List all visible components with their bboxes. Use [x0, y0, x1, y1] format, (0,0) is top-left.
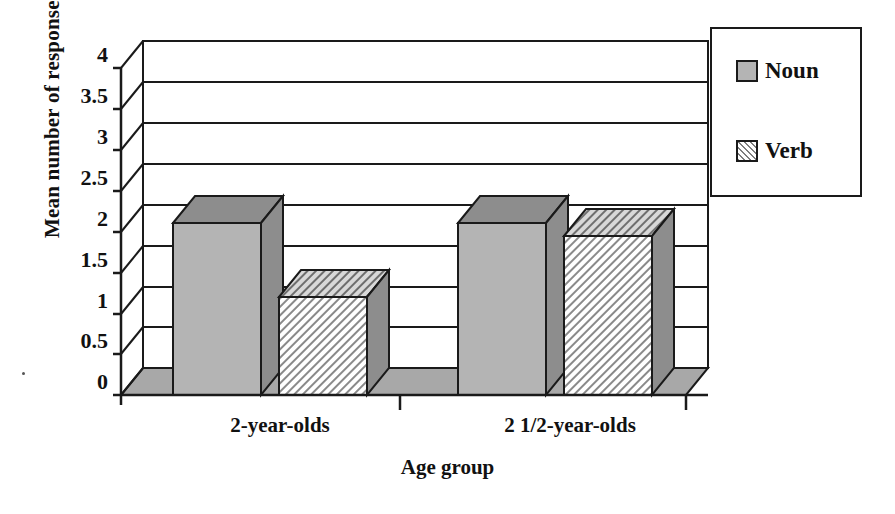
bar-group1-verb[interactable]	[279, 270, 389, 395]
y-tick-label-3-5: 3.5	[42, 83, 108, 109]
legend-label-verb: Verb	[765, 139, 813, 162]
y-axis-line	[113, 68, 121, 395]
y-tick-label-3: 3	[52, 124, 108, 150]
legend-swatch-noun-icon	[736, 60, 758, 82]
bar-group2-verb[interactable]	[564, 209, 674, 395]
axis-side-wall	[121, 41, 143, 395]
bar-group2-noun[interactable]	[458, 196, 568, 395]
y-tick-label-2-5: 2.5	[42, 165, 108, 191]
legend: Noun Verb	[710, 27, 862, 197]
legend-label-noun: Noun	[765, 59, 819, 82]
x-category-label-2-and-half-year-olds: 2 1/2-year-olds	[435, 413, 705, 438]
y-tick-label-0: 0	[52, 369, 108, 395]
x-category-label-2-year-olds: 2-year-olds	[165, 413, 395, 438]
y-tick-label-1: 1	[52, 288, 108, 314]
bar-chart-figure: Mean number of responses 4 3.5 3 2.5 2 1…	[0, 0, 895, 514]
y-tick-label-4: 4	[52, 42, 108, 68]
legend-item-verb[interactable]: Verb	[736, 139, 813, 162]
y-tick-label-0-5: 0.5	[42, 328, 108, 354]
y-tick-label-1-5: 1.5	[42, 247, 108, 273]
y-tick-label-2: 2	[52, 206, 108, 232]
legend-item-noun[interactable]: Noun	[736, 59, 819, 82]
bar-group1-noun[interactable]	[173, 196, 283, 395]
legend-swatch-verb-icon	[736, 140, 758, 162]
x-axis-line	[121, 395, 708, 410]
scan-artifact-dot	[22, 372, 25, 375]
x-axis-title: Age group	[0, 455, 895, 480]
